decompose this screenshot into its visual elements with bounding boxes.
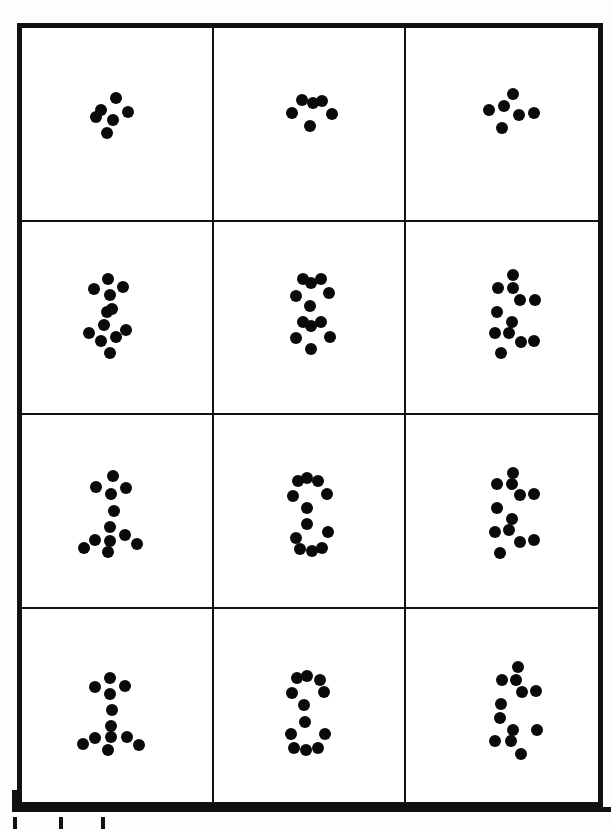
dot — [318, 686, 330, 698]
dot — [107, 470, 119, 482]
dot — [491, 478, 503, 490]
dot — [304, 120, 316, 132]
dot — [496, 674, 508, 686]
dot — [108, 505, 120, 517]
dot — [301, 502, 313, 514]
dot — [528, 488, 540, 500]
scale-tick-3 — [101, 817, 105, 829]
dot — [104, 521, 116, 533]
dot — [507, 88, 519, 100]
grid-cell-r4c1 — [22, 609, 214, 803]
dot — [489, 327, 501, 339]
scale-tick-2 — [59, 817, 63, 829]
dot — [102, 546, 114, 558]
dot — [323, 287, 335, 299]
dot — [83, 327, 95, 339]
dot — [119, 680, 131, 692]
dot — [290, 332, 302, 344]
dot — [106, 303, 118, 315]
dot — [529, 294, 541, 306]
dot — [304, 300, 316, 312]
dot — [489, 735, 501, 747]
dot — [326, 108, 338, 120]
dot — [530, 685, 542, 697]
dot — [315, 273, 327, 285]
dot — [121, 731, 133, 743]
dot — [528, 335, 540, 347]
dot — [300, 744, 312, 756]
dot — [294, 543, 306, 555]
dot — [483, 104, 495, 116]
dot — [512, 661, 524, 673]
dot — [299, 716, 311, 728]
dot — [133, 739, 145, 751]
dot — [286, 687, 298, 699]
dot — [102, 273, 114, 285]
dot — [77, 738, 89, 750]
dot — [102, 744, 114, 756]
dot — [507, 269, 519, 281]
dot — [89, 681, 101, 693]
dot — [305, 343, 317, 355]
dot — [95, 335, 107, 347]
dot — [515, 336, 527, 348]
dot — [90, 111, 102, 123]
dot — [515, 748, 527, 760]
dot — [110, 92, 122, 104]
dot — [122, 106, 134, 118]
dot — [531, 724, 543, 736]
dot — [514, 294, 526, 306]
dot — [314, 674, 326, 686]
dot — [285, 728, 297, 740]
dot — [496, 122, 508, 134]
dot — [88, 283, 100, 295]
dot — [89, 534, 101, 546]
dot — [120, 324, 132, 336]
dot — [514, 489, 526, 501]
dot — [290, 290, 302, 302]
grid-cell-r4c2 — [214, 609, 406, 803]
dot — [107, 114, 119, 126]
dot — [298, 699, 310, 711]
dot — [506, 478, 518, 490]
dot — [507, 282, 519, 294]
dot — [89, 732, 101, 744]
dot — [286, 107, 298, 119]
grid-cell-r2c2 — [214, 222, 406, 416]
dot — [322, 526, 334, 538]
dot — [316, 542, 328, 554]
dot — [514, 536, 526, 548]
dot — [503, 524, 515, 536]
grid-cell-r2c3 — [406, 222, 598, 416]
dot — [119, 529, 131, 541]
dot — [301, 670, 313, 682]
dot — [105, 731, 117, 743]
dot — [315, 316, 327, 328]
dot — [516, 686, 528, 698]
dot — [495, 347, 507, 359]
dot — [316, 95, 328, 107]
scale-tick-1 — [13, 817, 17, 829]
dot — [321, 488, 333, 500]
dot — [491, 502, 503, 514]
dot — [104, 688, 116, 700]
dot — [528, 107, 540, 119]
dot — [78, 542, 90, 554]
dot — [287, 490, 299, 502]
dot — [528, 534, 540, 546]
dot — [505, 735, 517, 747]
dot — [104, 347, 116, 359]
dot — [513, 109, 525, 121]
dot — [319, 728, 331, 740]
dot — [101, 127, 113, 139]
dot — [489, 526, 501, 538]
dot — [106, 704, 118, 716]
scale-bar-horizontal-segment — [12, 807, 611, 812]
dot — [498, 100, 510, 112]
dot — [312, 475, 324, 487]
grid-cell-r2c1 — [22, 222, 214, 416]
dot — [503, 327, 515, 339]
dot — [98, 319, 110, 331]
grid-cell-r3c3 — [406, 415, 598, 609]
dot — [105, 488, 117, 500]
